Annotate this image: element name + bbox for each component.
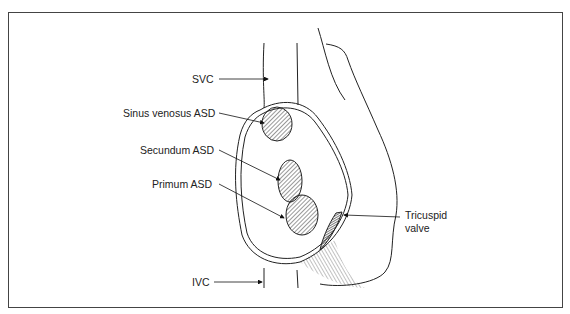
primum-asd <box>286 195 318 235</box>
label-sinus-venosus-asd: Sinus venosus ASD <box>123 107 215 120</box>
label-svc: SVC <box>192 73 214 86</box>
label-primum-asd: Primum ASD <box>152 178 212 191</box>
sinus-venosus-asd <box>262 107 292 141</box>
heart-diagram <box>0 0 570 314</box>
label-valve: valve <box>405 222 430 235</box>
label-secundum-asd: Secundum ASD <box>140 144 214 157</box>
label-ivc: IVC <box>192 276 210 289</box>
label-tricuspid: Tricuspid <box>405 209 447 222</box>
